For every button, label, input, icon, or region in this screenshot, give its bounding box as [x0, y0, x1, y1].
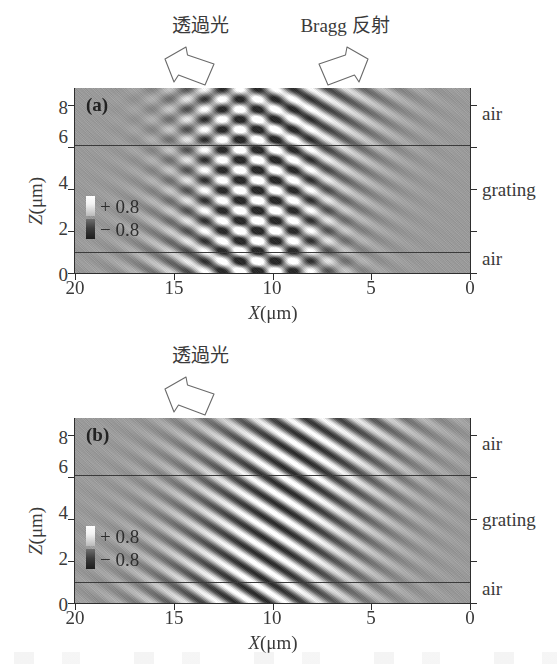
region-label-grating: grating	[482, 510, 536, 529]
x-tick-mark	[273, 274, 274, 280]
color-key-negative-row: − 0.8	[86, 219, 139, 239]
y-tick-mark-right	[470, 105, 477, 106]
color-key-negative-label: − 0.8	[100, 220, 139, 239]
color-key-negative-label: − 0.8	[100, 550, 139, 569]
y-tick-mark-right	[470, 603, 477, 604]
y-axis-spine	[74, 418, 75, 604]
y-tick-label: 6	[42, 457, 68, 476]
color-key-positive-label: + 0.8	[100, 527, 139, 546]
right-axis-spine	[470, 88, 471, 274]
field-map-canvas-a	[75, 88, 470, 273]
x-axis-title-a: X(μm)	[195, 303, 351, 322]
block-arrow-up-right-icon	[305, 42, 371, 88]
region-label-grating: grating	[482, 180, 536, 199]
y-tick-mark	[68, 189, 75, 190]
color-key-positive-label: + 0.8	[100, 197, 139, 216]
x-tick-label: 15	[156, 278, 192, 297]
x-axis-title-b: X(μm)	[195, 633, 351, 652]
region-label-air-top: air	[482, 104, 502, 123]
field-map-b	[75, 418, 470, 603]
interface-line-upper	[75, 475, 470, 476]
color-key-a: + 0.8 − 0.8	[86, 196, 172, 242]
figure-root: 透過光 Bragg 反射 Z(μm) 0 2 4 6 8	[0, 0, 557, 664]
x-axis-symbol: X	[248, 632, 260, 653]
interface-line-lower	[75, 252, 470, 253]
y-tick-mark-right	[470, 273, 477, 274]
y-tick-label: 8	[42, 428, 68, 447]
gradient-swatch-negative-icon	[86, 549, 95, 569]
panel-letter-b: (b)	[86, 425, 109, 444]
x-tick-label: 20	[57, 278, 93, 297]
y-tick-mark-right	[470, 519, 477, 520]
color-key-positive-row: + 0.8	[86, 526, 139, 546]
annotation-bragg-reflection-a: Bragg 反射	[275, 16, 415, 86]
y-tick-mark	[68, 435, 75, 436]
region-label-air-top: air	[482, 434, 502, 453]
gradient-swatch-negative-icon	[86, 219, 95, 239]
x-tick-label: 10	[254, 608, 290, 627]
y-tick-mark-right	[470, 477, 477, 478]
region-label-air-bottom: air	[482, 249, 502, 268]
y-tick-label: 2	[42, 219, 68, 238]
y-tick-mark	[68, 477, 75, 478]
y-tick-label: 6	[42, 127, 68, 146]
x-tick-mark	[470, 274, 471, 280]
y-tick-mark	[68, 603, 75, 604]
x-tick-label: 5	[353, 608, 389, 627]
panel-a: 透過光 Bragg 反射 Z(μm) 0 2 4 6 8	[0, 0, 557, 330]
x-tick-mark	[75, 604, 76, 610]
x-tick-mark	[371, 604, 372, 610]
annotation-label: Bragg 反射	[275, 16, 415, 35]
color-key-positive-row: + 0.8	[86, 196, 139, 216]
y-tick-mark-right	[470, 561, 477, 562]
y-tick-mark-right	[470, 147, 477, 148]
panel-letter-a: (a)	[86, 95, 108, 114]
x-axis-unit: (μm)	[260, 632, 298, 653]
x-tick-mark	[273, 604, 274, 610]
color-key-negative-row: − 0.8	[86, 549, 139, 569]
x-tick-mark	[75, 274, 76, 280]
gradient-swatch-positive-icon	[86, 196, 95, 216]
y-tick-label: 4	[42, 503, 68, 522]
block-arrow-up-left-icon	[162, 42, 228, 88]
x-tick-label: 20	[57, 608, 93, 627]
y-tick-mark	[68, 519, 75, 520]
annotation-transmitted-light-b: 透過光	[140, 346, 260, 416]
y-axis-spine	[74, 88, 75, 274]
x-tick-label: 5	[353, 278, 389, 297]
color-key-b: + 0.8 − 0.8	[86, 526, 172, 572]
y-tick-mark	[68, 273, 75, 274]
y-tick-mark	[68, 105, 75, 106]
y-tick-label: 4	[42, 173, 68, 192]
y-tick-mark	[68, 561, 75, 562]
y-tick-mark	[68, 147, 75, 148]
annotation-label: 透過光	[140, 16, 260, 35]
x-tick-mark	[371, 274, 372, 280]
x-tick-mark	[470, 604, 471, 610]
x-tick-label: 10	[254, 278, 290, 297]
block-arrow-up-left-icon	[162, 372, 228, 418]
y-tick-mark	[68, 231, 75, 232]
x-axis-symbol: X	[248, 302, 260, 323]
x-tick-mark	[174, 274, 175, 280]
y-tick-mark-right	[470, 231, 477, 232]
panel-b: 透過光 Z(μm) 0 2 4 6 8 (b) + 0	[0, 330, 557, 660]
x-tick-mark	[174, 604, 175, 610]
x-tick-label: 0	[452, 608, 488, 627]
x-tick-label: 15	[156, 608, 192, 627]
x-tick-label: 0	[452, 278, 488, 297]
field-map-canvas-b	[75, 418, 470, 603]
interface-line-lower	[75, 582, 470, 583]
y-tick-label: 8	[42, 98, 68, 117]
interface-line-upper	[75, 145, 470, 146]
field-map-a	[75, 88, 470, 273]
y-tick-mark-right	[470, 435, 477, 436]
region-label-air-bottom: air	[482, 579, 502, 598]
annotation-label: 透過光	[140, 346, 260, 365]
gradient-swatch-positive-icon	[86, 526, 95, 546]
x-axis-unit: (μm)	[260, 302, 298, 323]
y-tick-label: 2	[42, 549, 68, 568]
caption-remnant	[0, 652, 557, 664]
annotation-transmitted-light-a: 透過光	[140, 16, 260, 86]
right-axis-spine	[470, 418, 471, 604]
